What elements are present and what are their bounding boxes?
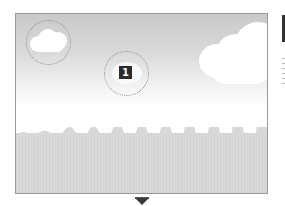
side-text-fragment <box>282 58 285 88</box>
ground-edge <box>16 127 268 137</box>
ground-area <box>16 133 267 193</box>
down-arrow-icon <box>135 198 149 205</box>
camera-lcd-frame: 1 <box>15 13 268 194</box>
focus-number-badge: 1 <box>119 66 132 79</box>
side-heading-bar <box>282 15 285 42</box>
